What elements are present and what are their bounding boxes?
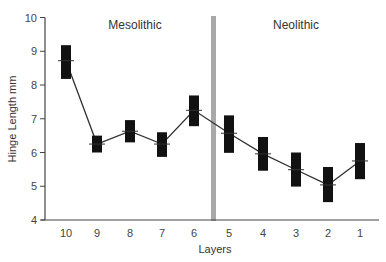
- range-box: [61, 45, 71, 79]
- x-tick-label: 1: [357, 227, 363, 239]
- x-tick-label: 5: [226, 227, 232, 239]
- y-tick-label: 7: [31, 113, 37, 125]
- range-box: [224, 115, 234, 152]
- axes: 4567891010987654321: [25, 12, 379, 240]
- x-tick-label: 9: [94, 227, 100, 239]
- x-tick-label: 10: [60, 227, 72, 239]
- hinge-length-chart: 4567891010987654321 Mesolithic Neolithic…: [0, 0, 386, 262]
- x-tick-label: 3: [293, 227, 299, 239]
- y-tick-label: 9: [31, 45, 37, 57]
- mesolithic-label: Mesolithic: [108, 18, 161, 32]
- x-axis-title: Layers: [198, 243, 232, 255]
- neolithic-label: Neolithic: [273, 18, 319, 32]
- y-tick-label: 10: [25, 12, 37, 24]
- y-tick-label: 4: [31, 214, 37, 226]
- y-tick-label: 8: [31, 79, 37, 91]
- x-tick-label: 6: [191, 227, 197, 239]
- range-box: [189, 95, 199, 126]
- y-axis-title: Hinge Length mm: [6, 76, 18, 163]
- x-tick-label: 4: [260, 227, 266, 239]
- period-divider: [211, 16, 216, 221]
- x-tick-label: 7: [159, 227, 165, 239]
- x-tick-label: 2: [325, 227, 331, 239]
- y-tick-label: 6: [31, 147, 37, 159]
- range-box: [157, 132, 167, 157]
- x-tick-label: 8: [127, 227, 133, 239]
- y-tick-label: 5: [31, 180, 37, 192]
- period-divider-bar: [211, 16, 216, 221]
